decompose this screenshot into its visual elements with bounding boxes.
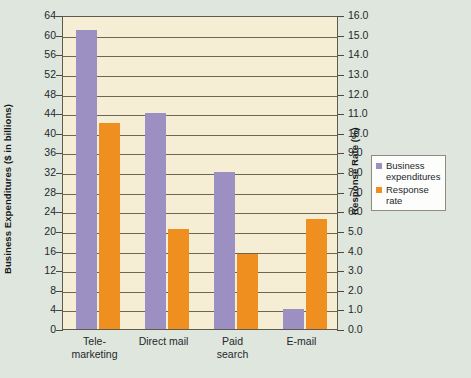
- legend-label: Businessexpenditures: [386, 160, 440, 182]
- tick-mark-right: [337, 114, 344, 115]
- tick-label-left: 32: [44, 167, 56, 178]
- tick-mark-right: [337, 36, 344, 37]
- tick-label-right: 4.0: [348, 246, 363, 257]
- tick-label-left: 28: [44, 187, 56, 198]
- tick-label-left: 0: [50, 324, 56, 335]
- tick-label-right: 6.0: [348, 206, 363, 217]
- legend-swatch-icon: [376, 163, 382, 169]
- tick-label-left: 36: [44, 147, 56, 158]
- bar-response-1: [168, 229, 189, 329]
- tick-mark-right: [337, 291, 344, 292]
- tick-label-left: 64: [44, 10, 56, 21]
- tick-mark-right: [337, 95, 344, 96]
- tick-mark-left: [56, 330, 63, 331]
- tick-label-right: 12.0: [348, 89, 368, 100]
- tick-mark-right: [337, 153, 344, 154]
- tick-mark-right: [337, 232, 344, 233]
- tick-label-left: 44: [44, 108, 56, 119]
- tick-label-left: 4: [50, 304, 56, 315]
- gridline: [63, 37, 337, 38]
- tick-label-left: 48: [44, 89, 56, 100]
- category-label-3: E-mail: [287, 335, 317, 348]
- tick-label-left: 52: [44, 69, 56, 80]
- tick-mark-right: [337, 55, 344, 56]
- tick-label-right: 14.0: [348, 49, 368, 60]
- tick-mark-right: [337, 75, 344, 76]
- tick-label-right: 10.0: [348, 128, 368, 139]
- tick-label-right: 5.0: [348, 226, 363, 237]
- bar-response-2: [237, 254, 258, 329]
- category-label-2: Paidsearch: [217, 335, 249, 360]
- bar-expenditures-1: [145, 113, 166, 329]
- tick-label-right: 3.0: [348, 265, 363, 276]
- tick-label-left: 24: [44, 206, 56, 217]
- tick-label-right: 15.0: [348, 30, 368, 41]
- bar-expenditures-3: [283, 309, 304, 329]
- tick-label-left: 8: [50, 285, 56, 296]
- chart-legend: BusinessexpendituresResponserate: [371, 155, 446, 211]
- legend-label: Responserate: [386, 184, 429, 206]
- tick-mark-right: [337, 330, 344, 331]
- legend-swatch-icon: [376, 187, 382, 193]
- bar-response-3: [306, 219, 327, 329]
- tick-mark-right: [337, 193, 344, 194]
- chart-container: Business Expenditures ($ in billions) Re…: [0, 0, 471, 378]
- gridline: [63, 96, 337, 97]
- tick-label-right: 16.0: [348, 10, 368, 21]
- tick-label-left: 40: [44, 128, 56, 139]
- tick-mark-right: [337, 212, 344, 213]
- tick-label-right: 11.0: [348, 108, 368, 119]
- tick-label-left: 60: [44, 30, 56, 41]
- tick-label-left: 12: [44, 265, 56, 276]
- tick-mark-right: [337, 134, 344, 135]
- tick-label-right: 9.0: [348, 147, 363, 158]
- tick-label-left: 56: [44, 49, 56, 60]
- tick-mark-right: [337, 16, 344, 17]
- tick-label-left: 16: [44, 246, 56, 257]
- tick-label-right: 0.0: [348, 324, 363, 335]
- tick-label-right: 7.0: [348, 187, 363, 198]
- tick-mark-right: [337, 310, 344, 311]
- left-axis-title: Business Expenditures ($ in billions): [2, 104, 13, 274]
- tick-label-right: 13.0: [348, 69, 368, 80]
- tick-mark-right: [337, 173, 344, 174]
- category-label-1: Direct mail: [139, 335, 189, 348]
- gridline: [63, 56, 337, 57]
- bar-expenditures-0: [76, 30, 97, 329]
- legend-item-1: Responserate: [376, 184, 440, 206]
- legend-item-0: Businessexpenditures: [376, 160, 440, 182]
- tick-mark-right: [337, 271, 344, 272]
- tick-label-right: 1.0: [348, 304, 363, 315]
- bar-response-0: [99, 123, 120, 329]
- tick-mark-right: [337, 252, 344, 253]
- plot-area: [62, 16, 338, 330]
- category-label-0: Tele-marketing: [71, 335, 117, 360]
- gridline: [63, 115, 337, 116]
- tick-label-right: 2.0: [348, 285, 363, 296]
- bar-expenditures-2: [214, 172, 235, 329]
- tick-label-right: 8.0: [348, 167, 363, 178]
- gridline: [63, 76, 337, 77]
- tick-label-left: 20: [44, 226, 56, 237]
